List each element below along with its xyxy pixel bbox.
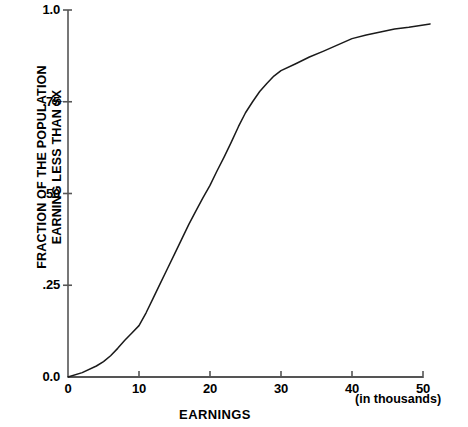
x-tick-label: 40 — [337, 381, 367, 396]
data-line-cumulative-distribution — [68, 24, 430, 377]
y-tick-label: .75 — [18, 94, 60, 109]
y-axis-title: FRACTION OF THE POPULATION EARNING LESS … — [33, 57, 67, 277]
y-tick-label: .25 — [18, 277, 60, 292]
x-tick-label: 10 — [124, 381, 154, 396]
line-chart-plot — [0, 0, 468, 427]
y-tick-label: .50 — [18, 186, 60, 201]
chart-figure: FRACTION OF THE POPULATION EARNING LESS … — [0, 0, 468, 427]
x-tick-label: 50 — [408, 381, 438, 396]
x-tick-label: 30 — [266, 381, 296, 396]
x-tick-label: 20 — [195, 381, 225, 396]
x-axis-title: EARNINGS — [0, 407, 430, 422]
x-tick-label: 0 — [53, 381, 83, 396]
y-tick-label: 1.0 — [18, 2, 60, 17]
y-axis-title-line-2: EARNING LESS THAN $X — [50, 90, 65, 245]
